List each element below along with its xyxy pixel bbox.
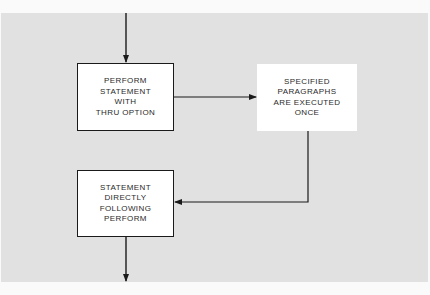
following-statement-box: STATEMENT DIRECTLY FOLLOWING PERFORM	[77, 170, 174, 237]
arrow-paragraphs-to-following	[175, 131, 308, 202]
perform-statement-label: PERFORM STATEMENT WITH THRU OPTION	[96, 76, 156, 118]
specified-paragraphs-label: SPECIFIED PARAGRAPHS ARE EXECUTED ONCE	[273, 77, 340, 119]
connector-lines	[0, 0, 430, 295]
perform-statement-box: PERFORM STATEMENT WITH THRU OPTION	[77, 63, 174, 131]
specified-paragraphs-box: SPECIFIED PARAGRAPHS ARE EXECUTED ONCE	[257, 64, 357, 131]
following-statement-label: STATEMENT DIRECTLY FOLLOWING PERFORM	[100, 183, 152, 225]
